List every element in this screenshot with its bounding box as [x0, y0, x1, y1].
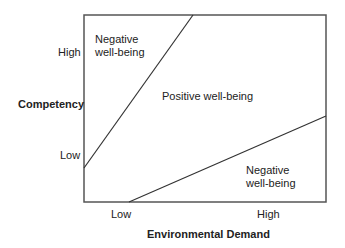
- region-lower-right-line1: Negative: [246, 164, 296, 177]
- x-tick-low: Low: [111, 208, 131, 221]
- region-upper-left-label: Negative well-being: [95, 33, 145, 59]
- diagram-canvas: [0, 0, 345, 248]
- region-middle-label: Positive well-being: [162, 90, 253, 103]
- y-tick-low: Low: [60, 149, 80, 162]
- y-tick-high: High: [58, 46, 81, 59]
- x-tick-high: High: [257, 208, 280, 221]
- region-upper-left-line2: well-being: [95, 46, 145, 59]
- x-axis-label: Environmental Demand: [147, 228, 270, 240]
- region-lower-right-line2: well-being: [246, 177, 296, 190]
- y-axis-label: Competency: [18, 98, 84, 110]
- lower-boundary-line: [129, 116, 326, 202]
- region-lower-right-label: Negative well-being: [246, 164, 296, 190]
- region-upper-left-line1: Negative: [95, 33, 145, 46]
